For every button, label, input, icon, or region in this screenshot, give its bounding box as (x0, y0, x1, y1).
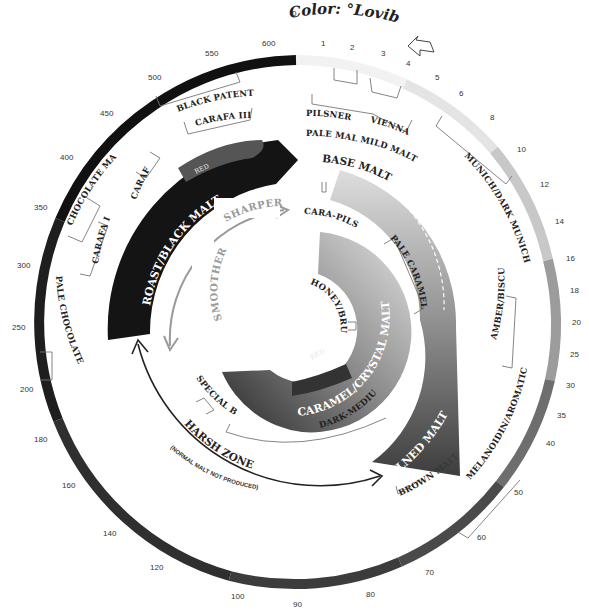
chart-title: Color: °Lovibond (0, 0, 402, 27)
svg-text:25: 25 (570, 350, 579, 359)
svg-text:180: 180 (34, 435, 48, 444)
label-vienna: VIENNA (369, 114, 412, 137)
svg-text:80: 80 (366, 590, 375, 599)
label-caramel-red: RED (309, 348, 326, 362)
label-honey-brumalt: HONEY/BRUMALT (0, 0, 349, 334)
svg-text:600: 600 (262, 39, 276, 48)
svg-text:18: 18 (570, 286, 579, 295)
label-pale-malt: PALE MALT (0, 0, 359, 144)
clockwise-arrow-icon (408, 36, 434, 56)
label-pale-chocolate: PALE CHOCOLATE (54, 275, 86, 365)
svg-text:14: 14 (555, 217, 564, 226)
svg-text:100: 100 (231, 592, 245, 601)
label-carafa-i: CARAFA I (90, 215, 112, 264)
svg-text:70: 70 (425, 568, 434, 577)
svg-text:450: 450 (100, 109, 114, 118)
svg-text:350: 350 (34, 203, 48, 212)
label-carafa-iii: CARAFA III (194, 110, 252, 128)
svg-text:250: 250 (12, 323, 26, 332)
svg-text:140: 140 (103, 529, 117, 538)
svg-text:35: 35 (557, 411, 566, 420)
svg-text:500: 500 (148, 73, 162, 82)
svg-text:4: 4 (406, 59, 411, 68)
svg-text:5: 5 (435, 73, 440, 82)
svg-text:30: 30 (566, 381, 575, 390)
svg-text:8: 8 (490, 113, 495, 122)
svg-text:60: 60 (477, 533, 486, 542)
svg-text:200: 200 (20, 385, 34, 394)
svg-text:160: 160 (62, 481, 76, 490)
svg-text:550: 550 (205, 49, 219, 58)
svg-text:10: 10 (517, 145, 526, 154)
svg-text:0: 0 (292, 9, 297, 18)
svg-text:20: 20 (572, 318, 581, 327)
svg-text:2: 2 (350, 43, 355, 52)
label-cara-pils: CARA-PILS (304, 206, 360, 230)
svg-text:120: 120 (150, 563, 164, 572)
svg-text:16: 16 (566, 254, 575, 263)
svg-text:12: 12 (540, 180, 549, 189)
svg-text:50: 50 (514, 488, 523, 497)
svg-text:400: 400 (60, 153, 74, 162)
svg-text:40: 40 (546, 439, 555, 448)
svg-text:3: 3 (381, 49, 386, 58)
svg-text:90: 90 (293, 600, 302, 609)
label-munich: MUNICH/DARK MUNICH (463, 150, 533, 264)
svg-text:6: 6 (459, 89, 464, 98)
svg-text:1: 1 (321, 39, 326, 48)
label-mild-malt: MILD MALT (360, 134, 420, 164)
label-pilsner: PILSNER (306, 108, 353, 122)
malt-color-wheel: Color: °Lovibond 0 1 2 3 4 5 6 8 10 12 1… (0, 0, 589, 613)
label-carafa-ii: CARAFA II (0, 0, 152, 201)
svg-text:300: 300 (17, 261, 31, 270)
